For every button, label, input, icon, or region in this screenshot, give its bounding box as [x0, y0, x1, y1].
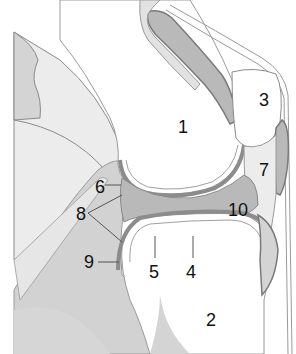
label-10: 10 — [228, 201, 248, 219]
anterior-capsule — [258, 215, 278, 295]
label-5: 5 — [149, 263, 159, 281]
label-patella: 3 — [259, 91, 269, 109]
knee-joint-diagram: 1 2 3 4 5 6 7 8 9 10 — [0, 0, 296, 354]
knee-anatomy-illustration — [0, 0, 296, 354]
patellar-ligament — [275, 120, 288, 195]
label-6: 6 — [95, 178, 105, 196]
label-tibia: 2 — [206, 311, 216, 329]
label-9: 9 — [84, 253, 94, 271]
label-8: 8 — [76, 205, 86, 223]
label-7: 7 — [259, 161, 269, 179]
label-femur: 1 — [178, 118, 188, 136]
label-4: 4 — [186, 263, 196, 281]
tibia — [122, 213, 270, 354]
